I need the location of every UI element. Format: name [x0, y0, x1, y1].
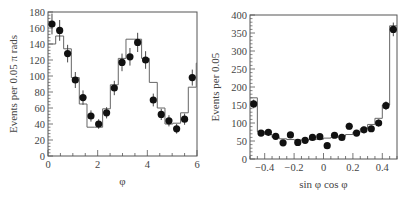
y-tick-label: 100 — [29, 71, 45, 82]
data-point — [338, 134, 345, 141]
data-point — [56, 27, 63, 34]
data-point — [48, 20, 55, 27]
data-point — [158, 111, 165, 118]
data-point — [95, 120, 102, 127]
data-point — [279, 139, 286, 146]
x-tick-label: 6 — [194, 159, 199, 170]
data-point — [64, 50, 71, 57]
x-tick-label: 0 — [321, 162, 326, 173]
data-point — [111, 84, 118, 91]
y-tick-label: 60 — [35, 103, 46, 114]
y-axis-label: Events per 0.05 — [209, 52, 221, 121]
data-point — [309, 134, 316, 141]
x-axis-label: φ — [119, 175, 125, 187]
y-tick-label: 350 — [231, 28, 247, 39]
y-tick-label: 250 — [231, 64, 247, 75]
y-tick-label: 120 — [29, 55, 45, 66]
y-tick-label: 40 — [35, 119, 46, 130]
y-tick-label: 100 — [231, 118, 247, 129]
data-point — [118, 59, 125, 66]
y-tick-label: 20 — [35, 135, 46, 146]
data-point — [287, 131, 294, 138]
y-tick-label: 160 — [29, 23, 45, 34]
y-tick-label: 50 — [237, 136, 248, 147]
y-tick-label: 0 — [40, 151, 45, 162]
y-tick-label: 180 — [29, 7, 45, 18]
data-point — [87, 112, 94, 119]
x-tick-label: −0.2 — [285, 162, 304, 173]
data-point — [126, 53, 133, 60]
data-point — [382, 102, 389, 109]
data-point — [324, 142, 331, 149]
data-point — [346, 123, 353, 130]
data-point — [375, 119, 382, 126]
data-point — [150, 96, 157, 103]
x-tick-label: 0.2 — [346, 162, 359, 173]
y-tick-label: 140 — [29, 39, 45, 50]
data-point — [250, 100, 257, 107]
data-point — [302, 137, 309, 144]
data-point — [103, 109, 110, 116]
x-tick-label: 4 — [145, 159, 151, 170]
data-point — [142, 56, 149, 63]
data-point — [265, 129, 272, 136]
data-point — [331, 132, 338, 139]
x-tick-label: −0.4 — [255, 162, 275, 173]
data-point — [189, 74, 196, 81]
data-point — [165, 117, 172, 124]
x-tick-label: 0 — [45, 159, 50, 170]
y-tick-label: 200 — [231, 82, 247, 93]
data-point — [257, 129, 264, 136]
y-axis-label: Events per 0.05 π rads — [7, 35, 19, 133]
data-point — [272, 133, 279, 140]
y-tick-label: 80 — [35, 87, 46, 98]
x-tick-label: 2 — [95, 159, 100, 170]
data-point — [316, 133, 323, 140]
data-point — [134, 39, 141, 46]
figure: 0204060801001201401601800246φEvents per … — [0, 0, 414, 200]
y-tick-label: 0 — [242, 154, 247, 165]
plot-frame — [48, 12, 197, 156]
data-point — [390, 26, 397, 33]
fit-histogram — [250, 26, 397, 140]
y-tick-label: 400 — [231, 10, 247, 21]
data-point — [173, 125, 180, 132]
y-tick-label: 150 — [231, 100, 247, 111]
data-point — [294, 139, 301, 146]
x-tick-label: 0.4 — [376, 162, 390, 173]
data-point — [368, 125, 375, 132]
fit-histogram — [48, 36, 197, 127]
x-axis-label: sin φ cos φ — [299, 178, 347, 190]
y-tick-label: 300 — [231, 46, 247, 57]
left-chart-phi-distribution: 0204060801001201401601800246φEvents per … — [7, 7, 200, 188]
data-point — [181, 116, 188, 123]
right-chart-sinphi-cosphi-distribution: 050100150200250300350400−0.4−0.200.20.4s… — [209, 10, 397, 191]
data-point — [353, 129, 360, 136]
data-point — [72, 76, 79, 83]
data-point — [79, 94, 86, 101]
data-point — [360, 126, 367, 133]
